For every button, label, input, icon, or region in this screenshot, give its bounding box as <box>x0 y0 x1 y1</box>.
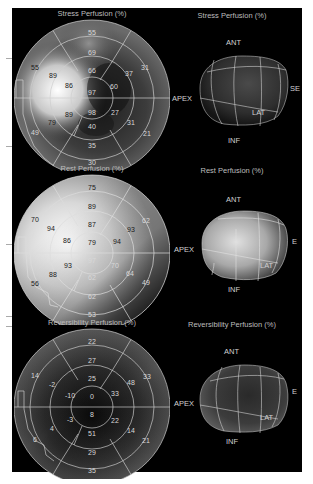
segment-value: -2 <box>49 381 55 388</box>
segment-value: 64 <box>126 270 134 277</box>
segment-value: 87 <box>88 221 96 228</box>
segment-value: 21 <box>142 437 150 444</box>
segment-value: 94 <box>113 238 121 245</box>
segment-value: 31 <box>127 119 135 126</box>
reversibility-base-label: E <box>292 387 297 396</box>
segment-value: 29 <box>88 449 96 456</box>
segment-value: 86 <box>63 237 71 244</box>
rest-segment-labels: 7589877994936270948697706449938856626253 <box>14 169 170 325</box>
segment-value: 93 <box>127 226 135 233</box>
segment-value: 4 <box>50 425 54 432</box>
stress-apex-label: APEX <box>172 94 192 103</box>
segment-value: 31 <box>141 64 149 71</box>
rest-apex-label: APEX <box>174 245 194 254</box>
segment-value: 79 <box>48 119 56 126</box>
reversibility-heart-surface <box>162 317 302 472</box>
segment-value: 97 <box>88 89 96 96</box>
segment-value: -10 <box>65 392 75 399</box>
segment-value: 62 <box>88 274 96 281</box>
stress-segment-labels: 5569669760373198273121403530558986897949 <box>14 14 170 170</box>
stress-row: Stress Perfusion (%) <box>12 8 302 163</box>
rest-base-label: E <box>292 237 297 246</box>
segment-value: 56 <box>31 280 39 287</box>
segment-value: 14 <box>127 427 135 434</box>
segment-value: 97 <box>88 257 96 264</box>
reversibility-3d-render[interactable]: Reversibility Perfusion (%) <box>162 317 302 472</box>
stress-base-label: SE <box>290 84 300 93</box>
rest-inf-label: INF <box>228 285 240 294</box>
segment-value: 55 <box>31 64 39 71</box>
segment-value: 55 <box>88 29 96 36</box>
segment-value: 70 <box>31 216 39 223</box>
segment-value: 62 <box>88 293 96 300</box>
stress-3d-render[interactable]: Stress Perfusion (%) <box>162 8 302 163</box>
segment-value: 89 <box>65 111 73 118</box>
segment-value: 22 <box>88 338 96 345</box>
segment-value: 35 <box>88 467 96 474</box>
reversibility-segment-labels: 222725033483314-2-108-346221421512935 <box>14 323 170 479</box>
segment-value: 6 <box>33 436 37 443</box>
segment-value: 49 <box>142 279 150 286</box>
segment-value: -3 <box>67 416 73 423</box>
segment-value: 66 <box>88 67 96 74</box>
rest-heart-surface <box>162 163 302 318</box>
rest-ant-label: ANT <box>226 195 241 204</box>
perfusion-viewer-panel: Stress Perfusion (%) <box>12 8 302 472</box>
segment-value: 70 <box>111 262 119 269</box>
reversibility-row: Reversibility Perfusion (%) <box>12 317 302 472</box>
segment-value: 79 <box>88 239 96 246</box>
rest-lat-label: LAT <box>260 261 273 270</box>
segment-value: 93 <box>64 262 72 269</box>
stress-ant-label: ANT <box>226 38 241 47</box>
reversibility-ant-label: ANT <box>224 347 239 356</box>
segment-value: 25 <box>88 375 96 382</box>
segment-value: 33 <box>143 373 151 380</box>
segment-value: 62 <box>142 217 150 224</box>
segment-value: 89 <box>88 203 96 210</box>
segment-value: 22 <box>111 417 119 424</box>
segment-value: 98 <box>88 109 96 116</box>
segment-value: 49 <box>31 129 39 136</box>
segment-value: 8 <box>90 411 94 418</box>
segment-value: 40 <box>88 123 96 130</box>
segment-value: 60 <box>110 83 118 90</box>
segment-value: 69 <box>88 49 96 56</box>
stress-inf-label: INF <box>228 136 240 145</box>
segment-value: 21 <box>143 130 151 137</box>
reversibility-inf-label: INF <box>226 437 238 446</box>
segment-value: 27 <box>88 357 96 364</box>
segment-value: 51 <box>88 430 96 437</box>
rest-row: Rest Perfusion (%) <box>12 163 302 318</box>
stress-lat-label: LAT <box>252 108 265 117</box>
segment-value: 89 <box>49 72 57 79</box>
segment-value: 0 <box>90 393 94 400</box>
segment-value: 86 <box>65 82 73 89</box>
segment-value: 14 <box>31 372 39 379</box>
reversibility-lat-label: LAT <box>260 413 273 422</box>
segment-value: 88 <box>49 271 57 278</box>
segment-value: 37 <box>125 70 133 77</box>
segment-value: 94 <box>47 225 55 232</box>
segment-value: 35 <box>88 142 96 149</box>
segment-value: 27 <box>111 109 119 116</box>
reversibility-apex-label: APEX <box>174 399 194 408</box>
rest-3d-render[interactable]: Rest Perfusion (%) <box>162 163 302 318</box>
segment-value: 75 <box>88 184 96 191</box>
segment-value: 48 <box>127 379 135 386</box>
segment-value: 33 <box>111 390 119 397</box>
